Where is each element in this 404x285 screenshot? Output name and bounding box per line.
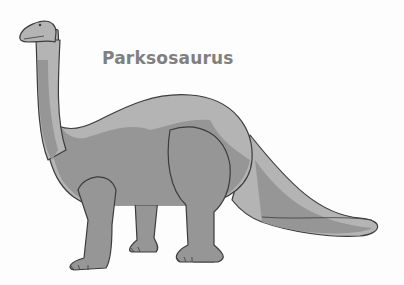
dinosaur-hind-leg-near <box>168 127 230 262</box>
dinosaur-illustration <box>0 0 404 285</box>
dinosaur-front-leg-far <box>130 198 158 252</box>
illustration-canvas: Parksosaurus <box>0 0 404 285</box>
